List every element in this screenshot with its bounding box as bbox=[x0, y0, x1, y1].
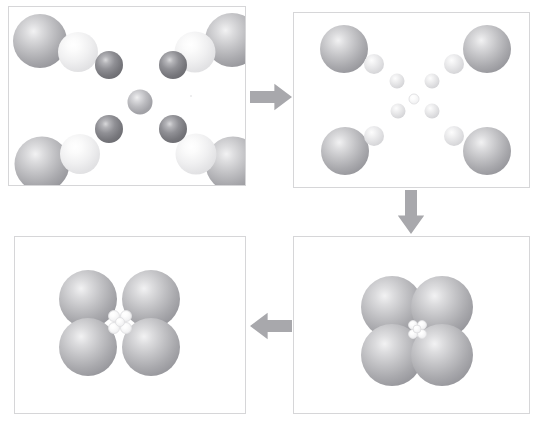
speck-panel1 bbox=[190, 95, 192, 97]
panel-content-expanded-lattice bbox=[9, 7, 245, 185]
sphere-interstitial-centre bbox=[413, 325, 422, 334]
panel-expanded-lattice bbox=[8, 6, 246, 186]
arrow-right-panel1-to-panel2 bbox=[250, 82, 292, 112]
sphere-corner-ring-top-right bbox=[444, 54, 464, 74]
arrow-left-panel3-to-panel4 bbox=[250, 311, 292, 341]
sphere-corner-pale-top-left bbox=[58, 32, 98, 72]
panel-fully-compressed-cluster bbox=[293, 236, 530, 414]
panel-content-partially-compressed-lattice bbox=[294, 13, 529, 187]
panel-partially-compressed-lattice bbox=[293, 12, 530, 188]
arrow-down-panel2-to-panel3 bbox=[396, 190, 426, 234]
sphere-inner-dark-top-left bbox=[95, 51, 123, 79]
sphere-corner-pale-bottom-left bbox=[60, 134, 100, 174]
panel-content-fully-compressed-cluster bbox=[294, 237, 529, 413]
sphere-corner-large-bottom-left bbox=[321, 127, 369, 175]
sphere-corner-large-bottom-right bbox=[463, 127, 511, 175]
sphere-inner-ring-bottom-right bbox=[425, 104, 440, 119]
figure-root bbox=[0, 0, 538, 427]
sphere-inner-dark-bottom-left bbox=[95, 115, 123, 143]
sphere-corner-large-top-right bbox=[463, 25, 511, 73]
sphere-corner-large-top-left bbox=[320, 25, 368, 73]
sphere-inner-ring-top-right bbox=[425, 74, 440, 89]
sphere-corner-ring-bottom-left bbox=[364, 126, 384, 146]
sphere-inner-ring-bottom-left bbox=[391, 104, 406, 119]
sphere-inner-centre bbox=[409, 94, 420, 105]
panel-relaxed-cluster bbox=[14, 236, 246, 414]
sphere-inner-ring-top-left bbox=[390, 74, 405, 89]
sphere-inner-dark-bottom-right bbox=[159, 115, 187, 143]
sphere-interstitial-centre bbox=[115, 317, 125, 327]
sphere-corner-ring-top-left bbox=[364, 54, 384, 74]
sphere-corner-ring-bottom-right bbox=[444, 126, 464, 146]
sphere-inner-centre bbox=[128, 90, 153, 115]
panel-content-relaxed-cluster bbox=[15, 237, 245, 413]
sphere-inner-dark-top-right bbox=[159, 51, 187, 79]
